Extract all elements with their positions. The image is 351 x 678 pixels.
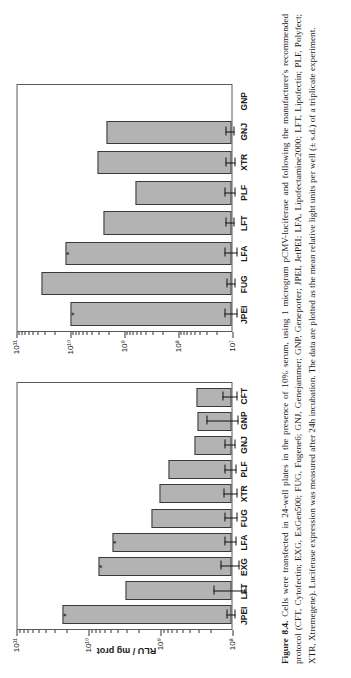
error-bar <box>224 192 235 193</box>
bar-cft[interactable] <box>196 388 231 407</box>
y-axis-minor-tick <box>129 332 130 335</box>
y-axis-minor-tick <box>110 630 111 633</box>
category-label-lfa: LFA <box>234 239 252 270</box>
bar-jpei[interactable]: * <box>70 302 231 326</box>
y-axis-label: 10¹¹ <box>12 340 20 354</box>
y-axis-label: 10¹⁰ <box>84 638 92 653</box>
chart-hela-category-labels: JPEILFTEXGLFAFUGXTRPLFGNJGNPCFT <box>234 382 252 630</box>
bar-gnj[interactable] <box>106 121 231 145</box>
y-axis-minor-tick <box>23 630 24 633</box>
chart-hela-plot-area: *** <box>16 382 232 630</box>
y-axis-minor-tick <box>99 630 100 633</box>
y-axis-minor-tick <box>132 332 133 335</box>
y-axis-tick <box>16 332 17 338</box>
y-axis-label: 10⁷ <box>228 340 236 352</box>
y-axis-minor-tick <box>199 332 200 335</box>
y-axis-minor-tick <box>24 332 25 335</box>
bar-slot: * <box>17 603 231 627</box>
y-axis-minor-tick <box>18 332 19 335</box>
bar-slot <box>17 117 231 147</box>
y-axis-tick <box>160 630 161 636</box>
bar-lft[interactable] <box>103 211 231 235</box>
y-axis-minor-tick <box>32 332 33 335</box>
y-axis-minor-tick <box>198 630 199 633</box>
category-label-lfa: LFA <box>234 530 252 554</box>
bar-fug[interactable] <box>151 509 231 528</box>
y-axis-label: 10⁸ <box>228 638 236 650</box>
y-axis-minor-tick <box>75 332 76 335</box>
y-axis-minor-tick <box>117 630 118 633</box>
y-axis-label: 10¹⁰ <box>66 340 74 355</box>
figure-caption-text: Cells were transfected in 24-well plates… <box>279 14 316 664</box>
y-axis-minor-tick <box>136 332 137 335</box>
y-axis-minor-tick <box>180 332 181 335</box>
bar-slot <box>17 148 231 178</box>
y-axis-minor-tick <box>126 630 127 633</box>
y-axis-minor-tick <box>72 332 73 335</box>
y-axis-minor-tick <box>206 332 207 335</box>
y-axis-label: 10⁸ <box>174 340 182 352</box>
y-axis-minor-tick <box>152 332 153 335</box>
bar-xtr[interactable] <box>159 484 231 503</box>
y-axis-minor-tick <box>37 332 38 335</box>
y-axis-minor-tick <box>95 630 96 633</box>
category-label-plf: PLF <box>234 457 252 481</box>
bar-slot <box>17 87 231 117</box>
proton-sponge-star: * <box>61 613 70 617</box>
y-axis-tick <box>124 332 125 338</box>
bar-slot: * <box>17 530 231 554</box>
bar-lfa[interactable]: * <box>112 533 231 552</box>
y-axis-minor-tick <box>108 332 109 335</box>
bar-slot: * <box>17 238 231 268</box>
y-axis-minor-tick <box>38 630 39 633</box>
bar-fug[interactable] <box>41 272 231 296</box>
y-axis-tick <box>232 332 233 338</box>
category-label-jpei: JPEI <box>234 604 252 628</box>
y-axis-minor-tick <box>82 332 83 335</box>
category-label-gnj: GNJ <box>234 433 252 457</box>
y-axis-minor-tick <box>44 332 45 335</box>
bar-xtr[interactable] <box>97 151 231 175</box>
y-axis-label: 10⁹ <box>120 340 128 352</box>
bar-slot <box>17 506 231 530</box>
bar-gnp[interactable] <box>197 412 231 431</box>
y-axis-label: 10¹¹ <box>12 638 20 652</box>
y-axis-label: 10⁹ <box>156 638 164 650</box>
proton-sponge-star: * <box>97 565 106 569</box>
category-label-xtr: XTR <box>234 482 252 506</box>
category-label-gnj: GNJ <box>234 117 252 148</box>
category-label-exg: EXG <box>234 555 252 579</box>
y-axis-minor-tick <box>54 332 55 335</box>
y-axis-minor-tick <box>28 332 29 335</box>
bar-plf[interactable] <box>168 460 231 479</box>
bar-exg[interactable]: * <box>98 557 231 576</box>
chart-hela-y-axis: 10⁸10⁹10¹⁰10¹¹ <box>16 630 232 664</box>
chart-cho-y-axis: 10⁷10⁸10⁹10¹⁰10¹¹ <box>16 332 232 366</box>
figure-number: Figure 8.4. <box>279 621 289 664</box>
bar-slot <box>17 458 231 482</box>
y-axis-minor-tick <box>145 332 146 335</box>
error-bar <box>226 614 235 615</box>
y-axis-minor-tick <box>140 332 141 335</box>
category-label-fug: FUG <box>234 269 252 300</box>
category-label-gnp: GNP <box>234 86 252 117</box>
y-axis-minor-tick <box>91 332 92 335</box>
y-axis-minor-tick <box>21 332 22 335</box>
bar-slot: * <box>17 299 231 329</box>
bar-plf[interactable] <box>135 181 231 205</box>
chart-hela-cells: HeLa cells * potential proton sponge RLU… <box>16 378 266 664</box>
bar-jpei[interactable]: * <box>62 605 231 624</box>
chart-cho-category-labels: JPEIFUGLFALFTPLFXTRGNJGNP <box>234 84 252 332</box>
bar-lfa[interactable]: * <box>65 242 231 266</box>
category-label-cft: CFT <box>234 384 252 408</box>
error-bar <box>225 223 234 224</box>
chart-cho-plot-area: ** <box>16 84 232 332</box>
figure-page: HeLa cells * potential proton sponge RLU… <box>0 0 351 678</box>
y-axis-minor-tick <box>176 630 177 633</box>
bar-lft[interactable] <box>125 581 231 600</box>
error-bar <box>226 283 235 284</box>
category-label-lft: LFT <box>234 208 252 239</box>
y-axis-minor-tick <box>162 332 163 335</box>
bar-slot <box>17 208 231 238</box>
bar-gnj[interactable] <box>194 436 231 455</box>
